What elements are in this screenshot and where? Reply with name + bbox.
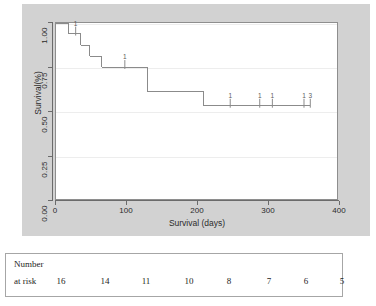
- x-axis-title: Survival (days): [55, 218, 339, 228]
- y-tick-2: [48, 111, 53, 112]
- plot-panel: 1111113: [55, 22, 338, 200]
- censor-label-0: 1: [74, 20, 78, 27]
- risk-value-7: 5: [340, 276, 345, 286]
- risk-value-2: 11: [142, 276, 151, 286]
- y-tick-0: [48, 200, 53, 201]
- km-curve-svg: 1111113: [56, 23, 337, 199]
- y-tick-label-1: 0.25: [40, 156, 49, 182]
- risk-table-label-number: Number: [14, 259, 44, 269]
- y-tick-1: [48, 156, 53, 157]
- censor-label-4: 1: [271, 92, 275, 99]
- x-tick-4: [339, 201, 340, 205]
- y-tick-4: [48, 22, 53, 23]
- x-tick-1: [126, 201, 127, 205]
- survival-figure: 0.00 0.25 0.50 0.75 1.00 0 100 200 300 4…: [22, 4, 370, 236]
- number-at-risk-table: Number at risk 16 14 11 10 8 7 6 5: [5, 253, 343, 297]
- x-tick-3: [268, 201, 269, 205]
- x-tick-label-0: 0: [53, 206, 57, 215]
- y-axis-title: Survival(%): [33, 53, 43, 133]
- risk-table-label-at-risk: at risk: [14, 276, 36, 286]
- risk-value-5: 7: [267, 276, 272, 286]
- risk-value-6: 6: [304, 276, 309, 286]
- x-tick-2: [197, 201, 198, 205]
- y-tick-label-4: 1.00: [40, 23, 49, 49]
- risk-value-4: 8: [227, 276, 232, 286]
- censor-label-6: 3: [309, 92, 313, 99]
- x-tick-label-3: 300: [261, 206, 274, 215]
- x-tick-0: [55, 201, 56, 205]
- risk-value-0: 16: [57, 276, 66, 286]
- censor-label-2: 1: [228, 92, 232, 99]
- risk-value-1: 14: [101, 276, 110, 286]
- y-tick-3: [48, 67, 53, 68]
- x-tick-label-4: 400: [332, 206, 345, 215]
- censor-label-3: 1: [258, 92, 262, 99]
- censor-label-1: 1: [123, 53, 127, 60]
- x-tick-label-2: 200: [190, 206, 203, 215]
- risk-value-3: 10: [185, 276, 194, 286]
- censor-label-5: 1: [302, 92, 306, 99]
- y-tick-label-0: 0.00: [40, 201, 49, 227]
- x-tick-label-1: 100: [119, 206, 132, 215]
- censor-marks-group: 1111113: [74, 20, 313, 108]
